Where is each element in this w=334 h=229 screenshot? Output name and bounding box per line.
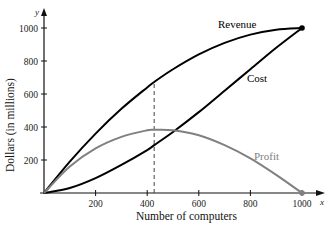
y-axis-title: Dollars (in millions) bbox=[4, 78, 17, 172]
x-tick-label: 1000 bbox=[293, 199, 312, 209]
y-tick-label: 200 bbox=[24, 156, 39, 166]
revenue-label: Revenue bbox=[218, 18, 257, 30]
x-tick-label: 200 bbox=[88, 199, 103, 209]
y-tick-label: 600 bbox=[24, 90, 39, 100]
cost-curve bbox=[44, 28, 302, 193]
x-tick-label: 400 bbox=[140, 199, 155, 209]
x-axis-arrow-icon bbox=[316, 190, 325, 196]
axes: y x bbox=[34, 7, 325, 207]
profit-label: Profit bbox=[254, 150, 279, 162]
y-tick-label: 400 bbox=[24, 123, 39, 133]
cost-label: Cost bbox=[247, 72, 267, 84]
y-axis-arrow-icon bbox=[41, 8, 47, 16]
y-tick-label: 800 bbox=[24, 57, 39, 67]
revenue-cost-intersection-point bbox=[299, 25, 305, 31]
x-axis-title: Number of computers bbox=[136, 210, 237, 223]
y-tick-label: 1000 bbox=[19, 24, 38, 34]
x-tick-label: 800 bbox=[243, 199, 258, 209]
x-tick-label: 600 bbox=[192, 199, 207, 209]
y-axis-variable: y bbox=[34, 7, 39, 17]
revenue-curve bbox=[44, 28, 302, 193]
y-ticks: 2004006008001000 bbox=[19, 24, 47, 166]
profit-zero-point bbox=[299, 190, 305, 196]
profit-chart: y x 2004006008001000 2004006008001000 Re… bbox=[0, 0, 334, 229]
x-axis-variable: x bbox=[319, 197, 324, 207]
